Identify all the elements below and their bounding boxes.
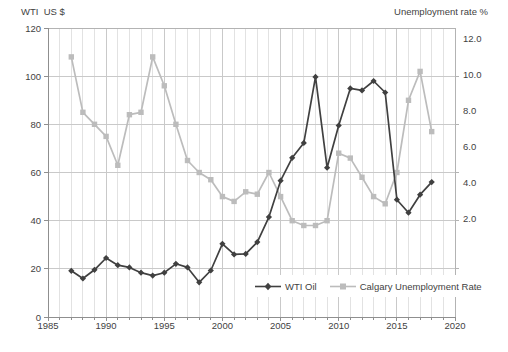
data-point-marker: [255, 192, 260, 197]
svg-text:120: 120: [25, 23, 41, 34]
data-point-marker: [92, 122, 97, 127]
wti-oil-markers: [68, 74, 435, 286]
svg-text:1985: 1985: [37, 320, 58, 331]
svg-text:2.0: 2.0: [463, 213, 476, 224]
data-point-marker: [138, 110, 143, 115]
data-point-marker: [150, 54, 155, 59]
data-point-marker: [69, 54, 74, 59]
data-point-marker: [197, 170, 202, 175]
legend-label-wti-oil: WTI Oil: [285, 281, 317, 292]
chart-canvas: 12010080604020012.010.08.06.04.02.019851…: [0, 0, 508, 352]
data-point-marker: [266, 170, 271, 175]
data-point-marker: [324, 165, 330, 171]
left-axis-title: WTI US $: [21, 6, 65, 17]
svg-text:2000: 2000: [212, 320, 233, 331]
data-point-marker: [185, 158, 190, 163]
data-point-marker: [371, 194, 376, 199]
data-point-marker: [80, 110, 85, 115]
legend-item-calgary-unemployment-rate: Calgary Unemployment Rate: [330, 281, 482, 292]
data-point-marker: [278, 178, 284, 184]
data-point-marker: [324, 218, 329, 223]
svg-text:1990: 1990: [96, 320, 117, 331]
calgary-unemployment-legend-line-square-icon: [330, 282, 356, 291]
data-point-marker: [208, 177, 213, 182]
data-point-marker: [348, 155, 353, 160]
data-point-marker: [150, 273, 156, 279]
legend-item-wti-oil: WTI Oil: [255, 281, 317, 292]
svg-text:2015: 2015: [386, 320, 407, 331]
right-axis-tick-labels: 12.010.08.06.04.02.0: [463, 33, 482, 224]
svg-text:80: 80: [30, 119, 41, 130]
calgary-unemployment-rate-line: [71, 57, 431, 226]
svg-text:4.0: 4.0: [463, 177, 476, 188]
data-point-marker: [243, 189, 248, 194]
data-point-marker: [220, 194, 225, 199]
svg-text:2010: 2010: [328, 320, 349, 331]
x-axis-tick-labels: 19851990199520002005201020152020: [37, 320, 465, 331]
wti-oil-legend-line-diamond-icon: [255, 282, 281, 291]
svg-text:2005: 2005: [270, 320, 291, 331]
svg-text:20: 20: [30, 263, 41, 274]
data-point-marker: [336, 122, 342, 128]
data-point-marker: [127, 112, 132, 117]
data-point-marker: [429, 129, 434, 134]
legend-label-calgary-unemployment-rate: Calgary Unemployment Rate: [360, 281, 482, 292]
data-point-marker: [103, 134, 108, 139]
data-point-marker: [359, 175, 364, 180]
data-point-marker: [138, 270, 144, 276]
right-axis-title: Unemployment rate %: [394, 6, 488, 17]
data-point-marker: [126, 264, 132, 270]
svg-text:10.0: 10.0: [463, 69, 482, 80]
data-point-marker: [336, 151, 341, 156]
data-point-marker: [173, 122, 178, 127]
svg-text:12.0: 12.0: [463, 33, 482, 44]
data-point-marker: [278, 194, 283, 199]
data-point-marker: [115, 163, 120, 168]
data-point-marker: [394, 170, 399, 175]
dual-axis-line-chart: 12010080604020012.010.08.06.04.02.019851…: [0, 0, 508, 352]
data-point-marker: [406, 98, 411, 103]
data-point-marker: [290, 218, 295, 223]
svg-text:6.0: 6.0: [463, 141, 476, 152]
chart-legend: WTI Oil Calgary Unemployment Rate: [249, 275, 488, 297]
svg-text:8.0: 8.0: [463, 105, 476, 116]
data-point-marker: [301, 223, 306, 228]
data-point-marker: [313, 223, 318, 228]
svg-text:40: 40: [30, 215, 41, 226]
data-point-marker: [417, 69, 422, 74]
data-point-marker: [383, 201, 388, 206]
left-axis-tick-labels: 120100806040200: [25, 23, 41, 323]
data-point-marker: [162, 83, 167, 88]
svg-text:100: 100: [25, 71, 41, 82]
data-point-marker: [231, 199, 236, 204]
svg-text:1995: 1995: [154, 320, 175, 331]
data-point-marker: [347, 85, 353, 91]
wti-oil-line: [71, 77, 431, 282]
data-point-marker: [266, 214, 272, 220]
svg-text:2020: 2020: [444, 320, 465, 331]
svg-text:60: 60: [30, 167, 41, 178]
data-point-marker: [312, 74, 318, 80]
